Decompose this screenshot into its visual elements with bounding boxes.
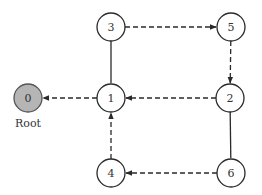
- node-4: 4: [97, 159, 125, 187]
- node-3: 3: [97, 13, 125, 41]
- node-5: 5: [217, 13, 245, 41]
- root-caption: Root: [15, 117, 42, 130]
- graph-diagram: 0123456 Root: [0, 0, 262, 195]
- node-label: 2: [227, 92, 234, 105]
- node-6: 6: [217, 159, 245, 187]
- node-label: 1: [108, 92, 115, 105]
- nodes-layer: 0123456: [14, 13, 245, 187]
- edge-5-to-2: [230, 41, 231, 83]
- node-1: 1: [97, 84, 125, 112]
- edge-2-to-6: [230, 112, 231, 158]
- node-label: 5: [228, 21, 235, 34]
- node-2: 2: [216, 84, 244, 112]
- edges-layer: [43, 27, 231, 173]
- node-label: 6: [228, 167, 235, 180]
- node-label: 0: [25, 92, 32, 105]
- node-label: 3: [108, 21, 115, 34]
- node-label: 4: [108, 167, 115, 180]
- node-0: 0: [14, 84, 42, 112]
